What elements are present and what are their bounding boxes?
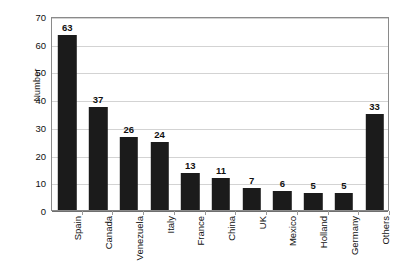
bar-value-label: 13	[185, 160, 196, 171]
y-axis-tick-label: 40	[20, 95, 46, 106]
x-axis-tick	[205, 211, 206, 215]
x-axis-category-slot: Others	[358, 216, 389, 272]
x-axis-tick	[297, 211, 298, 215]
y-axis-tick-label: 10	[20, 178, 46, 189]
bar[interactable]	[273, 191, 291, 210]
bar-value-label: 33	[369, 101, 380, 112]
bar-slot: 33	[359, 18, 390, 210]
y-axis-tick-label: 60	[20, 39, 46, 50]
bar[interactable]	[243, 188, 261, 210]
bar[interactable]	[335, 193, 353, 210]
y-axis-tick-label: 0	[20, 206, 46, 217]
x-axis-category-slot: Venezuela	[112, 216, 143, 272]
bar[interactable]	[58, 35, 76, 210]
y-axis-tick-label: 70	[20, 12, 46, 23]
bar-value-label: 5	[311, 180, 316, 191]
x-axis-category-slot: China	[205, 216, 236, 272]
x-axis-category-slot: Germany	[328, 216, 359, 272]
bar[interactable]	[150, 142, 168, 210]
x-axis-category-slot: Italy	[143, 216, 174, 272]
y-axis-tick-label: 30	[20, 122, 46, 133]
bar[interactable]	[212, 178, 230, 210]
bar-slot: 5	[329, 18, 360, 210]
bar-value-label: 26	[124, 124, 135, 135]
x-axis-category-slot: Spain	[51, 216, 82, 272]
bar-value-label: 37	[93, 94, 104, 105]
x-axis-category-slot: Holland	[297, 216, 328, 272]
bar[interactable]	[365, 114, 383, 210]
x-axis-category-slot: UK	[235, 216, 266, 272]
bar-value-label: 6	[280, 178, 285, 189]
bar[interactable]	[89, 107, 107, 210]
x-axis-tick	[143, 211, 144, 215]
y-axis-tick-label: 20	[20, 150, 46, 161]
y-axis-tick-label: 50	[20, 67, 46, 78]
bar-chart-figure: Number 706050403020100 63372624131176553…	[0, 0, 405, 275]
bar[interactable]	[304, 193, 322, 210]
x-axis-tick	[235, 211, 236, 215]
bar[interactable]	[120, 137, 138, 210]
x-axis-category-slot: Mexico	[266, 216, 297, 272]
bar-value-label: 7	[249, 175, 254, 186]
bar-value-label: 11	[216, 165, 226, 176]
x-axis-tick	[174, 211, 175, 215]
y-axis-tick-labels: 706050403020100	[20, 12, 46, 212]
bar-slot: 7	[236, 18, 267, 210]
x-axis-tick	[358, 211, 359, 215]
x-axis-tick	[328, 211, 329, 215]
x-axis-category-slot: France	[174, 216, 205, 272]
x-axis-category-label: Others	[379, 216, 390, 245]
bar-slot: 6	[267, 18, 298, 210]
bar-slot: 37	[83, 18, 114, 210]
bar-slot: 5	[298, 18, 329, 210]
bar-slot: 63	[52, 18, 83, 210]
bar-slot: 24	[144, 18, 175, 210]
plot-area: 633726241311765533	[51, 17, 389, 211]
bar-value-label: 63	[62, 22, 73, 33]
bar[interactable]	[181, 173, 199, 210]
x-axis-tick	[112, 211, 113, 215]
bar-slot: 26	[113, 18, 144, 210]
x-axis-tick	[82, 211, 83, 215]
x-axis-tick	[266, 211, 267, 215]
bars-layer: 633726241311765533	[52, 18, 388, 210]
x-axis-category-slot: Canada	[82, 216, 113, 272]
bar-value-label: 24	[154, 129, 165, 140]
x-axis-tick	[389, 211, 390, 215]
bar-value-label: 5	[341, 180, 346, 191]
bar-slot: 13	[175, 18, 206, 210]
bar-slot: 11	[206, 18, 237, 210]
x-axis-category-labels: SpainCanadaVenezuelaItalyFranceChinaUKMe…	[51, 216, 389, 272]
